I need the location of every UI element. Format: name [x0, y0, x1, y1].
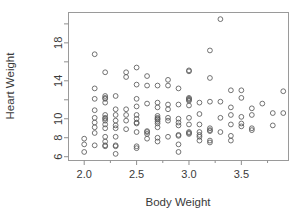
- data-point: [134, 96, 139, 101]
- data-point: [166, 83, 171, 88]
- data-point: [270, 123, 275, 128]
- x-axis-tick-labels: 2.02.53.03.5: [77, 168, 249, 180]
- scatter-plot-figure: 2.02.53.03.5 68101418 Body Weight Heart …: [0, 0, 298, 222]
- data-point: [239, 88, 244, 93]
- data-point: [134, 130, 139, 135]
- data-point: [113, 123, 118, 128]
- y-tick-label: 10: [53, 113, 65, 125]
- data-point: [187, 115, 192, 120]
- data-point: [113, 113, 118, 118]
- y-axis-ticks: [64, 24, 69, 157]
- data-point: [145, 136, 150, 141]
- data-point: [124, 75, 129, 80]
- x-tick-label: 3.0: [181, 168, 196, 180]
- data-point: [113, 107, 118, 112]
- data-point: [166, 102, 171, 107]
- data-point: [92, 143, 97, 148]
- data-point: [155, 83, 160, 88]
- data-point: [218, 99, 223, 104]
- y-tick-label: 8: [53, 135, 65, 141]
- data-point: [228, 105, 233, 110]
- data-point: [239, 114, 244, 119]
- data-point: [228, 133, 233, 138]
- data-point: [155, 105, 160, 110]
- data-point: [187, 122, 192, 127]
- data-points-layer: [82, 17, 286, 157]
- data-point: [218, 130, 223, 135]
- data-point: [145, 74, 150, 79]
- x-tick-label: 2.5: [129, 168, 144, 180]
- data-point: [166, 115, 171, 120]
- x-axis-ticks: [84, 161, 267, 166]
- data-point: [239, 95, 244, 100]
- data-point: [228, 113, 233, 118]
- data-point: [134, 65, 139, 70]
- data-point: [124, 127, 129, 132]
- data-point: [176, 150, 181, 155]
- data-point: [155, 100, 160, 105]
- data-point: [176, 102, 181, 107]
- data-point: [103, 70, 108, 75]
- data-point: [166, 107, 171, 112]
- y-axis-tick-labels: 68101418: [53, 37, 65, 160]
- data-point: [103, 134, 108, 139]
- data-point: [113, 118, 118, 123]
- data-point: [92, 96, 97, 101]
- data-point: [218, 17, 223, 22]
- data-point: [92, 86, 97, 91]
- data-point: [228, 122, 233, 127]
- data-point: [113, 94, 118, 99]
- data-point: [92, 115, 97, 120]
- data-point: [124, 107, 129, 112]
- data-point: [208, 99, 213, 104]
- data-point: [82, 142, 87, 147]
- data-point: [92, 125, 97, 130]
- data-point: [281, 111, 286, 116]
- x-tick-label: 3.5: [234, 168, 249, 180]
- data-point: [92, 108, 97, 113]
- data-point: [260, 101, 265, 106]
- y-tick-label: 18: [53, 37, 65, 49]
- x-axis-title: Body Weight: [146, 196, 212, 208]
- data-point: [281, 89, 286, 94]
- data-point: [113, 134, 118, 139]
- data-point: [134, 82, 139, 87]
- y-axis-title: Heart Weight: [4, 52, 16, 120]
- data-point: [208, 76, 213, 81]
- data-point: [249, 113, 254, 118]
- data-point: [218, 115, 223, 120]
- data-point: [197, 100, 202, 105]
- data-point: [124, 70, 129, 75]
- x-tick-label: 2.0: [77, 168, 92, 180]
- data-point: [228, 88, 233, 93]
- data-point: [82, 136, 87, 141]
- data-point: [176, 142, 181, 147]
- y-tick-label: 14: [53, 75, 65, 87]
- data-point: [92, 52, 97, 57]
- data-point: [208, 48, 213, 53]
- data-point: [197, 112, 202, 117]
- data-point: [239, 121, 244, 126]
- data-point: [166, 77, 171, 82]
- plot-canvas: 2.02.53.03.5 68101418 Body Weight Heart …: [0, 0, 298, 222]
- data-point: [166, 134, 171, 139]
- data-point: [134, 104, 139, 109]
- data-point: [228, 138, 233, 143]
- data-point: [124, 118, 129, 123]
- data-point: [197, 130, 202, 135]
- data-point: [187, 103, 192, 108]
- data-point: [197, 122, 202, 127]
- data-point: [270, 111, 275, 116]
- data-point: [82, 150, 87, 155]
- data-point: [92, 120, 97, 125]
- y-tick-label: 6: [53, 154, 65, 160]
- data-point: [124, 113, 129, 118]
- data-point: [145, 101, 150, 106]
- data-point: [145, 83, 150, 88]
- data-point: [249, 106, 254, 111]
- data-point: [92, 131, 97, 136]
- data-point: [113, 151, 118, 156]
- data-point: [176, 86, 181, 91]
